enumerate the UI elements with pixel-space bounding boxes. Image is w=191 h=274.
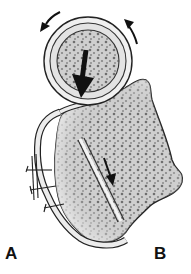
bone-head (44, 17, 132, 105)
label-b: B (154, 245, 166, 262)
anatomical-diagram (0, 0, 191, 274)
label-a: A (5, 245, 17, 262)
